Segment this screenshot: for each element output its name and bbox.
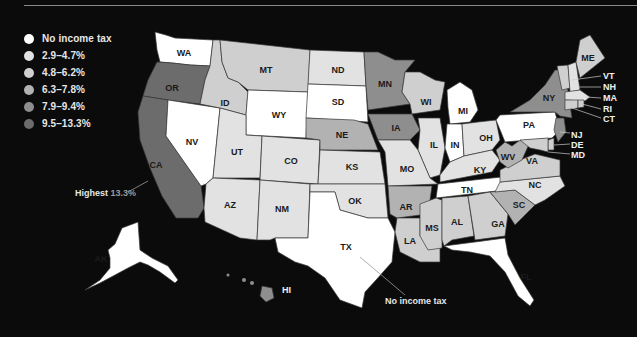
label-MO: MO <box>400 164 415 174</box>
label-IL: IL <box>430 140 439 150</box>
label-MN: MN <box>378 79 392 89</box>
label-MI: MI <box>458 106 468 116</box>
label-DE: DE <box>571 140 584 150</box>
label-OK: OK <box>348 196 362 206</box>
label-ME: ME <box>581 53 595 63</box>
label-LA: LA <box>404 236 416 246</box>
label-HI: HI <box>282 285 291 295</box>
hi-island <box>242 278 246 282</box>
label-NM: NM <box>275 204 289 214</box>
label-NJ: NJ <box>571 130 583 140</box>
label-AZ: AZ <box>224 200 236 210</box>
label-OH: OH <box>479 133 493 143</box>
label-PA: PA <box>523 120 535 130</box>
label-AL: AL <box>451 217 463 227</box>
label-NY: NY <box>543 93 556 103</box>
label-ND: ND <box>332 65 345 75</box>
hi-island <box>227 274 230 277</box>
label-MT: MT <box>260 65 273 75</box>
label-NE: NE <box>336 130 349 140</box>
no-income-tax-annotation: No income tax <box>385 296 447 306</box>
label-MS: MS <box>425 223 439 233</box>
label-WV: WV <box>501 152 516 162</box>
label-CO: CO <box>284 156 298 166</box>
label-VA: VA <box>526 156 538 166</box>
label-MD: MD <box>571 150 585 160</box>
label-MA: MA <box>603 93 617 103</box>
label-NV: NV <box>186 137 199 147</box>
label-SD: SD <box>332 97 345 107</box>
highest-annotation: Highest 13.3% <box>75 188 136 198</box>
label-SC: SC <box>513 200 526 210</box>
label-OR: OR <box>165 83 179 93</box>
leader-md <box>548 152 570 154</box>
label-CA: CA <box>150 160 163 170</box>
state-MI[interactable] <box>447 82 478 124</box>
label-IN: IN <box>451 140 460 150</box>
state-WI[interactable] <box>402 72 445 114</box>
label-AK: AK <box>95 254 108 264</box>
leader-ri <box>582 104 601 109</box>
label-VT: VT <box>603 71 615 81</box>
highest-value: 13.3% <box>111 188 137 198</box>
highest-label: Highest <box>75 188 108 198</box>
leader-ct <box>572 108 601 118</box>
state-NJ[interactable] <box>554 118 566 142</box>
state-CT[interactable] <box>565 100 578 110</box>
label-NC: NC <box>529 180 542 190</box>
label-UT: UT <box>231 147 243 157</box>
state-DE[interactable] <box>548 138 554 150</box>
label-TN: TN <box>461 185 473 195</box>
label-CT: CT <box>603 114 615 124</box>
label-WA: WA <box>177 48 192 58</box>
label-GA: GA <box>491 219 505 229</box>
leader-de <box>554 144 570 145</box>
label-TX: TX <box>340 242 352 252</box>
us-map: WA OR CA NV ID MT WY UT CO AZ NM ND SD N… <box>0 0 637 337</box>
label-IA: IA <box>392 123 402 133</box>
label-KS: KS <box>346 162 359 172</box>
label-NH: NH <box>603 82 616 92</box>
label-WY: WY <box>272 110 287 120</box>
label-RI: RI <box>603 104 612 114</box>
label-WI: WI <box>421 97 432 107</box>
label-ID: ID <box>221 98 231 108</box>
state-HI[interactable] <box>260 286 274 302</box>
label-FL: FL <box>521 272 532 282</box>
state-MA[interactable] <box>565 90 590 101</box>
label-AR: AR <box>400 202 413 212</box>
label-KY: KY <box>474 165 487 175</box>
hi-island <box>250 281 254 285</box>
